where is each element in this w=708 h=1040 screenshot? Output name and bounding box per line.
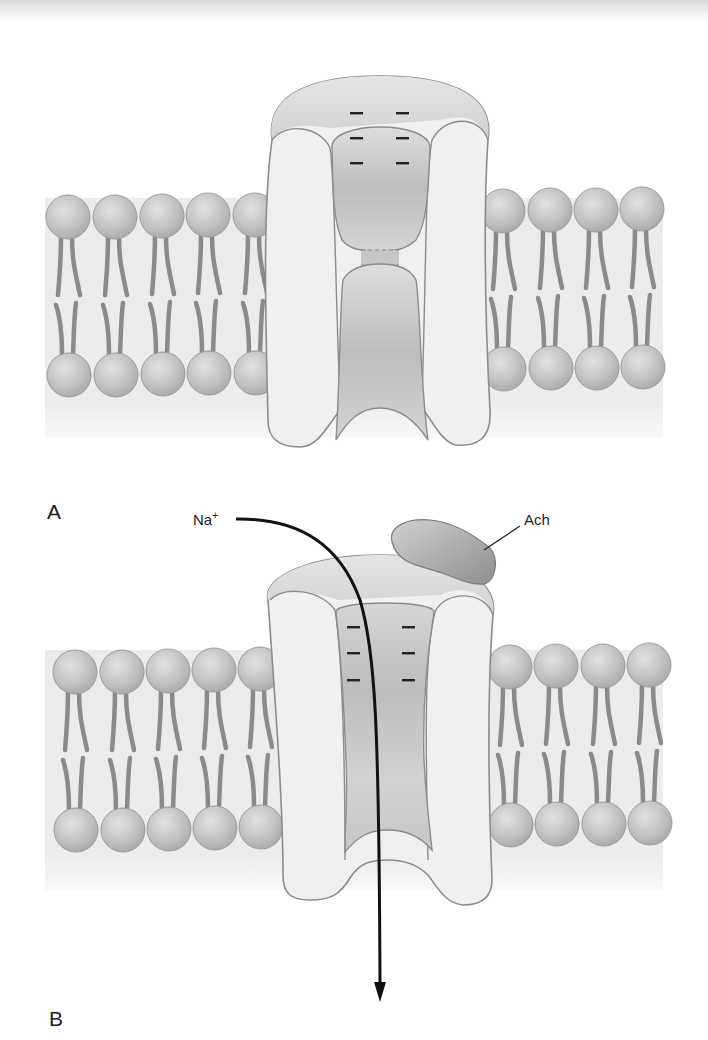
pore-upper [332,127,430,251]
ion-symbol: Na [193,511,212,528]
pore-gate [361,250,399,265]
panel-label-a: A [47,500,61,524]
pore-open [336,603,434,852]
channel-open [268,555,494,905]
channel-closed [266,76,491,447]
panel-label-b: B [49,1007,63,1031]
ach-leader-line [484,526,520,550]
ion-channel-diagram [0,0,708,1040]
panel-b [45,519,672,1002]
arrowhead-icon [374,982,386,1002]
ion-charge: + [212,510,218,521]
ach-label: Ach [524,511,550,528]
sodium-ion-label: Na+ [193,510,218,528]
panel-a [45,76,665,447]
